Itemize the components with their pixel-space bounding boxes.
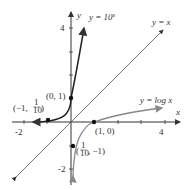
svg-text:(: (	[76, 146, 79, 156]
graph: y x 4 -2 -2 4 y = 10x y = x y = log x (0…	[0, 0, 189, 190]
point-tenth-neg1-label: ( 1 10 , −1)	[76, 140, 105, 158]
log-curve	[73, 108, 162, 176]
y-axis-label: y	[76, 10, 81, 20]
y-tick-neg2: -2	[58, 164, 66, 174]
point-tenth-neg1	[71, 144, 75, 148]
log-curve-label: y = log x	[139, 95, 172, 105]
y-tick-4: 4	[60, 23, 65, 33]
point-1-0-label: (1, 0)	[95, 126, 115, 136]
point-0-1	[69, 96, 73, 100]
point-neg1-tenth	[46, 118, 50, 122]
svg-text:(−1,: (−1,	[13, 103, 28, 113]
svg-text:): )	[41, 103, 44, 113]
point-0-1-label: (0, 1)	[46, 91, 66, 101]
x-tick-4: 4	[159, 127, 164, 137]
identity-line-label: y = x	[151, 17, 171, 27]
point-neg1-tenth-label: (−1, 1 10 )	[13, 97, 44, 115]
x-axis-label: x	[175, 107, 180, 117]
svg-text:, −1): , −1)	[88, 146, 105, 156]
x-tick-neg2: -2	[15, 127, 23, 137]
exp-curve	[37, 28, 84, 122]
exp-curve-label: y = 10x	[88, 12, 116, 22]
point-1-0	[92, 120, 96, 124]
